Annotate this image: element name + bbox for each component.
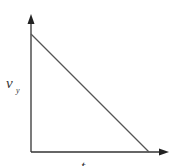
x-axis-label: t — [81, 158, 86, 166]
x-axis-arrow-icon — [159, 149, 169, 156]
y-axis-label: v — [6, 75, 13, 91]
velocity-time-diagram: v y t — [0, 0, 174, 166]
y-axis-label-subscript: y — [15, 86, 20, 95]
velocity-line — [31, 34, 149, 152]
y-axis-arrow-icon — [28, 14, 35, 24]
